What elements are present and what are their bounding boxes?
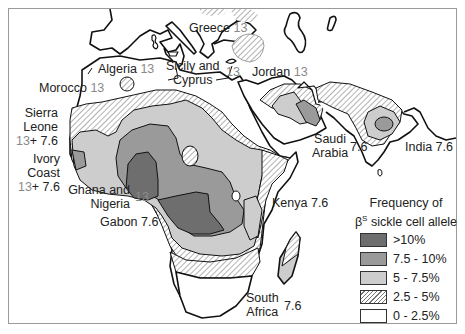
legend-item-5-7: 5 - 7.5% <box>360 270 440 286</box>
region-name: India <box>405 140 432 154</box>
region-name-line1: Ghana and <box>66 183 130 197</box>
legend-item-0-2: 0 - 2.5% <box>360 308 440 324</box>
label-morocco: Morocco 13 <box>39 81 104 95</box>
region-name-line2: Nigeria <box>66 197 130 211</box>
sardinia <box>152 35 158 49</box>
region-ref: + 7.6 <box>32 180 60 194</box>
region-name: Kenya <box>272 196 307 210</box>
region-name-line2: Arabia <box>312 146 348 160</box>
label-south-africa: South Africa <box>246 291 279 319</box>
legend-title-line2: sickle cell allele <box>367 215 457 229</box>
region-name-line2: Cyprus <box>166 73 220 87</box>
legend-label: 7.5 - 10% <box>393 252 447 266</box>
label-jordan: Jordan 13 <box>252 65 308 79</box>
region-ref: 7.6 <box>436 140 453 154</box>
legend-swatch <box>360 252 387 266</box>
region-ref: 7.6 <box>350 140 367 154</box>
label-gabon: Gabon 7.6 <box>100 215 158 229</box>
legend-item-2-5: 2.5 - 5% <box>360 289 440 305</box>
legend-swatch <box>360 233 387 247</box>
region-ref: 13 <box>90 81 104 95</box>
greece-hatch-top <box>200 9 228 16</box>
region-name: Gabon <box>100 215 138 229</box>
legend-label: >10% <box>393 233 425 247</box>
algeria-patch <box>120 77 134 91</box>
lake-hole-2 <box>232 191 240 201</box>
legend-label: 2.5 - 5% <box>393 290 440 304</box>
label-ghana-nigeria: Ghana and Nigeria <box>66 183 130 211</box>
label-saudi-arabia: Saudi Arabia <box>312 132 348 160</box>
label-sierra-leone: Sierra Leone 13+ 7.6 <box>14 106 58 148</box>
label-sicily-cyprus: Sicily and Cyprus <box>166 59 220 87</box>
legend-label: 0 - 2.5% <box>393 309 440 323</box>
sri-lanka <box>378 170 382 177</box>
region-ref: 13 <box>294 65 308 79</box>
aral-sea <box>328 16 337 30</box>
legend-item-over-10: >10% <box>360 232 425 248</box>
label-ivory-coast: Ivory Coast 13+ 7.6 <box>14 152 60 194</box>
legend-label: 5 - 7.5% <box>393 271 440 285</box>
legend-swatch <box>360 309 387 323</box>
legend-title: Frequency of βS sickle cell allele <box>351 196 461 230</box>
region-ref-gray: 13 <box>18 180 32 194</box>
label-india: India 7.6 <box>405 140 453 154</box>
region-ref: 13 <box>135 190 149 204</box>
region-ref: 7.6 <box>141 215 158 229</box>
region-name-line1: Saudi <box>312 132 348 146</box>
anatolia-hatch <box>232 34 264 62</box>
label-greece: Greece 13 <box>189 21 247 35</box>
legend-swatch <box>360 290 387 304</box>
caspian-sea <box>284 13 305 53</box>
region-name-line1: South <box>246 291 279 305</box>
label-ghana-nigeria-ref: 13 <box>135 190 149 204</box>
region-name: Morocco <box>39 81 87 95</box>
label-algeria: Algeria 13 <box>98 62 154 76</box>
legend-item-7-10: 7.5 - 10% <box>360 251 447 267</box>
south-africa <box>176 272 252 318</box>
label-south-africa-ref: 7.6 <box>284 299 301 313</box>
region-name: Algeria <box>98 62 137 76</box>
lake-hole <box>182 146 198 166</box>
cyprus <box>226 59 236 63</box>
legend-title-line1: Frequency of <box>351 196 461 211</box>
region-name-line1: Sicily and <box>166 59 220 73</box>
sicily <box>168 52 178 56</box>
region-ref: 7.6 <box>311 196 328 210</box>
region-name: Greece <box>189 21 230 35</box>
region-ref: 7.6 <box>284 299 301 313</box>
legend: Frequency of βS sickle cell allele >10% … <box>355 196 463 230</box>
region-name-line2: Africa <box>246 305 279 319</box>
label-sicily-cyprus-ref: 13 <box>226 65 240 79</box>
region-name-line1: Sierra <box>14 106 58 120</box>
india-mid <box>375 117 393 131</box>
legend-swatch <box>360 271 387 285</box>
region-ref: 13 <box>233 21 247 35</box>
region-name: Jordan <box>252 65 290 79</box>
region-name-line1: Ivory <box>14 152 60 166</box>
region-name-line2: Leone <box>14 120 58 134</box>
region-ref: 13 <box>226 65 240 79</box>
region-ref-gray: 13 <box>16 134 30 148</box>
region-ref: + 7.6 <box>30 134 58 148</box>
label-kenya: Kenya 7.6 <box>272 196 328 210</box>
region-name-line2: Coast <box>14 166 60 180</box>
region-ref: 13 <box>140 62 154 76</box>
label-saudi-arabia-ref: 7.6 <box>350 140 367 154</box>
